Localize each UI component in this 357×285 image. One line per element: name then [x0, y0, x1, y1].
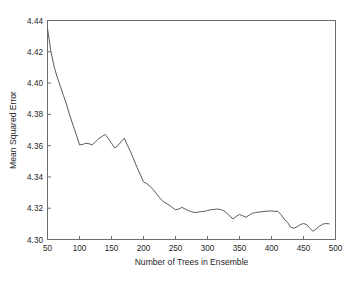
x-tick-label: 400 — [265, 244, 279, 253]
x-tick-label: 100 — [73, 244, 87, 253]
y-tick-label: 4.36 — [27, 142, 43, 151]
x-tick-label: 500 — [329, 244, 343, 253]
mse-vs-trees-line-chart: 4.304.324.344.364.384.404.424.44 5010015… — [0, 0, 357, 285]
x-tick-label: 50 — [43, 244, 53, 253]
x-tick-label: 450 — [297, 244, 311, 253]
x-tick-label: 300 — [201, 244, 215, 253]
y-tick-label: 4.30 — [27, 236, 43, 245]
y-tick-label: 4.32 — [27, 204, 43, 213]
y-tick-label: 4.44 — [27, 17, 43, 26]
y-tick-label: 4.40 — [27, 79, 43, 88]
x-axis-title: Number of Trees in Ensemble — [135, 257, 249, 267]
chart-background — [0, 0, 357, 285]
y-tick-label: 4.42 — [27, 48, 43, 57]
y-tick-label: 4.38 — [27, 110, 43, 119]
x-tick-label: 200 — [137, 244, 151, 253]
y-tick-label: 4.34 — [27, 173, 43, 182]
x-tick-label: 150 — [105, 244, 119, 253]
x-tick-label: 350 — [233, 244, 247, 253]
chart-figure: 4.304.324.344.364.384.404.424.44 5010015… — [0, 0, 357, 285]
y-axis-title: Mean Squared Error — [8, 91, 18, 169]
x-tick-label: 250 — [169, 244, 183, 253]
